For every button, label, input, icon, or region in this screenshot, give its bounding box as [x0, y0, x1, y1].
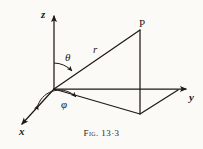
theta-angle-arc — [54, 63, 72, 71]
radius-label: r — [93, 44, 97, 55]
figure-container: z y x P r θ φ Fig. 13·3 — [0, 0, 203, 149]
phi-angle-label: φ — [61, 99, 67, 110]
phi-angle-arc — [38, 90, 76, 105]
point-p-label: P — [139, 18, 145, 29]
y-axis-label: y — [189, 92, 194, 103]
z-axis-label: z — [41, 9, 45, 20]
coordinate-diagram — [0, 0, 203, 149]
figure-caption-prefix: Fig. — [84, 128, 99, 138]
figure-caption: Fig. 13·3 — [0, 128, 203, 138]
figure-caption-number: 13·3 — [101, 128, 119, 138]
theta-angle-label: θ — [65, 52, 70, 63]
base-projection-quadrilateral — [54, 89, 178, 114]
x-axis-line — [22, 89, 54, 124]
